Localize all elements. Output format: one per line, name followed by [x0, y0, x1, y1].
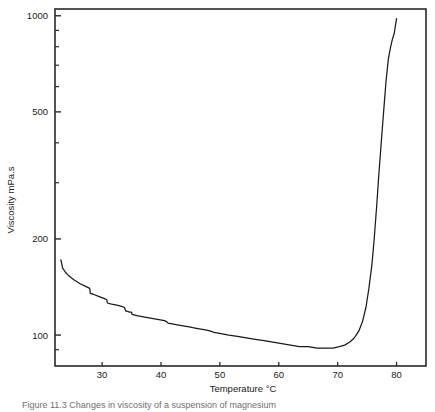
x-tick-label: 70 [332, 369, 343, 380]
x-tick-label: 30 [97, 369, 108, 380]
y-tick-label: 200 [32, 233, 48, 244]
x-tick-label: 50 [215, 369, 226, 380]
y-tick-label: 100 [32, 330, 48, 341]
x-axis-tick-labels: 304050607080 [97, 369, 402, 380]
x-axis-title: Temperature °C [210, 383, 277, 394]
x-tick-label: 60 [273, 369, 284, 380]
x-tick-label: 80 [391, 369, 402, 380]
data-series-line [61, 19, 397, 349]
y-axis-title: Viscosity mPa.s [5, 166, 16, 233]
x-tick-label: 40 [156, 369, 167, 380]
y-tick-label: 1000 [27, 10, 48, 21]
figure-caption: Figure 11.3 Changes in viscosity of a su… [0, 400, 435, 412]
series-path [61, 19, 397, 349]
y-axis-tick-labels: 1002005001000 [27, 10, 48, 340]
plot-frame [55, 9, 426, 366]
y-tick-label: 500 [32, 106, 48, 117]
y-axis-ticks [55, 16, 61, 350]
figure-container: 1002005001000 304050607080 Viscosity mPa… [0, 0, 435, 412]
viscosity-temperature-chart: 1002005001000 304050607080 Viscosity mPa… [0, 0, 435, 412]
